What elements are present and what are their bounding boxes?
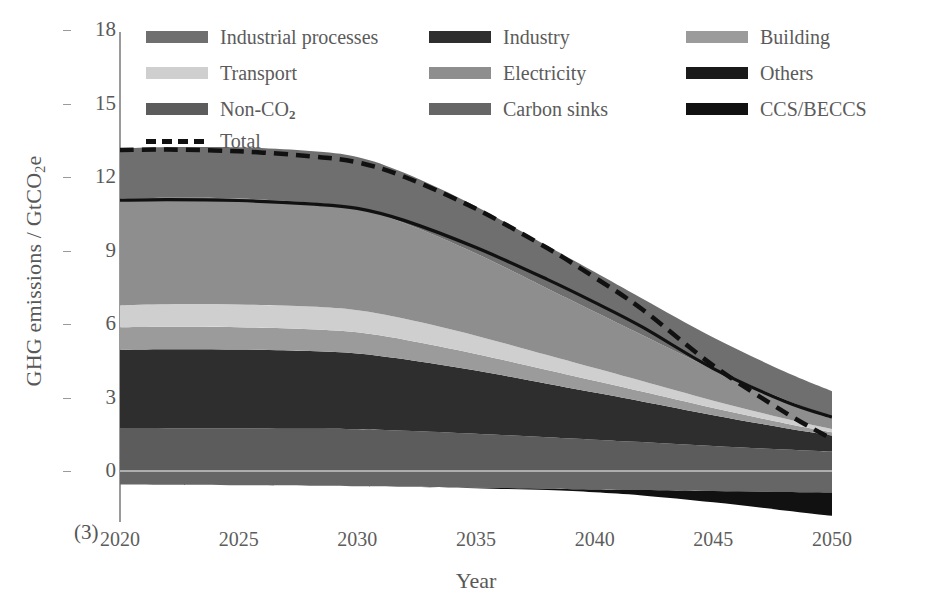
legend-label: Transport — [220, 63, 297, 83]
legend-item-non-co[interactable]: Non-CO2 — [146, 99, 295, 119]
legend-item-building[interactable]: Building — [686, 27, 830, 47]
legend-label: Industrial processes — [220, 27, 378, 47]
legend-item-ccs-beccs[interactable]: CCS/BECCS — [686, 99, 867, 119]
y-tick-label: 15 — [72, 93, 116, 114]
y-tick-mark — [63, 324, 71, 325]
y-tick-label: 6 — [72, 313, 116, 334]
y-tick-label: 9 — [72, 240, 116, 261]
y-tick-mark — [63, 471, 71, 472]
legend-swatch — [146, 103, 208, 115]
legend-item-industry[interactable]: Industry — [429, 27, 570, 47]
legend-item-transport[interactable]: Transport — [146, 63, 297, 83]
y-tick-mark — [63, 30, 71, 31]
legend-item-others[interactable]: Others — [686, 63, 813, 83]
x-tick-label: 2035 — [456, 528, 496, 551]
y-axis-title-text: GHG emissions / GtCO — [21, 173, 46, 387]
y-tick-mark — [63, 251, 71, 252]
y-tick-mark — [63, 104, 71, 105]
legend-swatch — [686, 103, 748, 115]
y-tick-label: 0 — [72, 460, 116, 481]
x-axis-ticks: 2020202520302035204020452050 — [0, 520, 931, 550]
legend-label: Total — [220, 131, 261, 151]
legend-label: CCS/BECCS — [760, 99, 867, 119]
legend-label: Others — [760, 63, 813, 83]
legend-swatch — [429, 67, 491, 79]
legend-swatch — [429, 103, 491, 115]
y-axis-title-suffix: e — [21, 156, 46, 166]
x-axis-title: Year — [120, 568, 832, 594]
x-tick-label: 2025 — [219, 528, 259, 551]
legend-item-total[interactable]: Total — [146, 131, 261, 151]
y-tick-mark — [63, 177, 71, 178]
legend-swatch — [429, 31, 491, 43]
legend-item-electricity[interactable]: Electricity — [429, 63, 586, 83]
legend-swatch — [686, 31, 748, 43]
chart-legend: Industrial processesIndustryBuildingTran… — [146, 27, 906, 145]
legend-swatch — [146, 67, 208, 79]
legend-label: Non-CO2 — [220, 99, 295, 119]
legend-label: Electricity — [503, 63, 586, 83]
legend-label-subscript: 2 — [289, 107, 296, 122]
x-tick-label: 2030 — [337, 528, 377, 551]
x-tick-label: 2050 — [812, 528, 852, 551]
legend-label: Building — [760, 27, 830, 47]
y-tick-mark — [63, 398, 71, 399]
y-tick-label: 12 — [72, 166, 116, 187]
legend-label: Industry — [503, 27, 570, 47]
y-axis-title-subscript: 2 — [33, 166, 48, 173]
legend-label: Carbon sinks — [503, 99, 608, 119]
legend-swatch — [146, 31, 208, 43]
area-band-carbon-sinks — [120, 471, 832, 493]
legend-swatch — [686, 67, 748, 79]
x-tick-label: 2040 — [575, 528, 615, 551]
panel-label: (3) — [74, 520, 99, 545]
legend-item-industrial-processes[interactable]: Industrial processes — [146, 27, 378, 47]
x-tick-label: 2020 — [100, 528, 140, 551]
legend-item-carbon-sinks[interactable]: Carbon sinks — [429, 99, 608, 119]
y-axis-title: GHG emissions / GtCO2e — [21, 61, 47, 481]
y-tick-label: 3 — [72, 387, 116, 408]
legend-dash-marker — [146, 135, 208, 147]
x-tick-label: 2045 — [693, 528, 733, 551]
y-tick-label: 18 — [72, 19, 116, 40]
ghg-emissions-area-chart: GHG emissions / GtCO2e 0369121518 202020… — [0, 0, 931, 611]
